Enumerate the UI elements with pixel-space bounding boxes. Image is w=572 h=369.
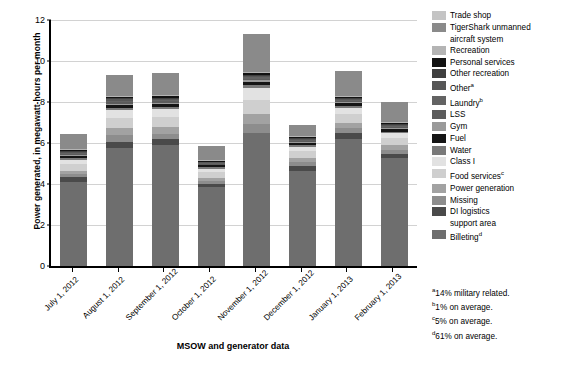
x-axis-title: MSOW and generator data	[49, 341, 417, 351]
bar-segment[interactable]	[243, 88, 270, 99]
legend-label: Other recreation	[450, 68, 572, 79]
bar-stack[interactable]	[152, 73, 179, 266]
legend-item[interactable]: TigerShark unmanned	[432, 22, 572, 33]
bar-segment[interactable]	[381, 138, 408, 145]
legend-label: Recreation	[450, 45, 572, 56]
legend-label: Fuel	[450, 133, 572, 144]
x-axis-tick-label: September 1, 2012	[124, 275, 171, 322]
bar-segment[interactable]	[60, 134, 87, 149]
bar-stack[interactable]	[381, 102, 408, 266]
bar-segment[interactable]	[335, 114, 362, 123]
legend-label: Water	[450, 145, 572, 156]
bar-segment[interactable]	[243, 124, 270, 133]
x-axis-tick-label: January 1, 2013	[307, 275, 354, 322]
legend-swatch	[432, 196, 446, 205]
bar-segment[interactable]	[198, 187, 225, 266]
bar-segment[interactable]	[106, 110, 133, 118]
legend-item[interactable]: DI logistics	[432, 206, 572, 217]
bar-stack[interactable]	[243, 34, 270, 266]
bar-segment[interactable]	[198, 146, 225, 160]
legend-footnote-marker: b	[480, 97, 483, 103]
bar-segment[interactable]	[335, 71, 362, 95]
legend-item[interactable]: Power generation	[432, 183, 572, 194]
legend-label: Food servicesc	[450, 168, 572, 182]
legend-label: LSS	[450, 109, 572, 120]
chart-figure: Power generated, in megawatt-hours per m…	[0, 0, 572, 369]
y-axis-title: Power generated, in megawatt-hours per m…	[32, 6, 42, 256]
legend-label: TigerShark unmanned	[450, 22, 572, 33]
legend-item[interactable]: Other recreation	[432, 68, 572, 79]
legend-item[interactable]: Recreation	[432, 45, 572, 56]
bar-segment[interactable]	[106, 75, 133, 96]
bar-segment[interactable]	[60, 182, 87, 266]
legend-swatch	[432, 11, 446, 20]
x-axis-tick-mark	[72, 268, 73, 272]
x-axis-tick-mark	[118, 268, 119, 272]
bar-segment[interactable]	[106, 128, 133, 135]
legend-footnote-marker: c	[501, 170, 504, 176]
footnote: c5% on average.	[432, 313, 572, 327]
legend-swatch	[432, 230, 446, 239]
x-axis-tick-mark	[209, 268, 210, 272]
footnote: d61% on average.	[432, 328, 572, 342]
legend-swatch	[432, 134, 446, 143]
bar-segment[interactable]	[152, 109, 179, 116]
legend-swatch	[432, 96, 446, 105]
x-axis-tick-mark	[301, 268, 302, 272]
x-axis-tick-mark	[163, 268, 164, 272]
legend-swatch	[432, 69, 446, 78]
x-axis-tick-label: February 1, 2013	[353, 275, 400, 322]
bar-segment[interactable]	[243, 34, 270, 72]
bar-stack[interactable]	[60, 134, 87, 266]
bar-segment[interactable]	[106, 148, 133, 266]
x-axis-tick-label: October 1, 2012	[170, 275, 217, 322]
legend-label: Gym	[450, 121, 572, 132]
legend-item[interactable]: Trade shop	[432, 10, 572, 21]
x-axis-tick-mark	[392, 268, 393, 272]
bar-segment[interactable]	[243, 114, 270, 124]
legend-swatch	[432, 157, 446, 166]
legend-label-continued: support area	[450, 218, 572, 229]
legend-swatch	[432, 81, 446, 90]
legend-item[interactable]: Missing	[432, 195, 572, 206]
bar-segment[interactable]	[289, 171, 316, 266]
bar-stack[interactable]	[198, 146, 225, 266]
legend-item[interactable]: Laundryb	[432, 95, 572, 109]
bar-segment[interactable]	[335, 139, 362, 266]
footnote-marker: c	[432, 315, 435, 321]
bar-segment[interactable]	[106, 118, 133, 129]
footnote: a14% military related.	[432, 285, 572, 299]
bar-segment[interactable]	[152, 145, 179, 266]
bar-stack[interactable]	[106, 75, 133, 266]
legend-item[interactable]: LSS	[432, 109, 572, 120]
legend-item[interactable]: Gym	[432, 121, 572, 132]
x-axis-tick-label: July 1, 2012	[33, 275, 80, 322]
legend-swatch	[432, 146, 446, 155]
x-axis-tick-label: November 1, 2012	[216, 275, 263, 322]
bar-stack[interactable]	[335, 71, 362, 266]
legend-label: Billetingd	[450, 229, 572, 243]
bar-segment[interactable]	[243, 133, 270, 266]
legend-item[interactable]: Fuel	[432, 133, 572, 144]
legend-item[interactable]: Personal services	[432, 57, 572, 68]
legend-item[interactable]: Class I	[432, 156, 572, 167]
x-axis-tick-mark	[255, 268, 256, 272]
legend-footnote-marker: d	[479, 231, 482, 237]
legend-swatch	[432, 110, 446, 119]
bar-stack[interactable]	[289, 125, 316, 266]
footnote: b1% on average.	[432, 299, 572, 313]
legend-item[interactable]: Food servicesc	[432, 168, 572, 182]
legend-item[interactable]: Water	[432, 145, 572, 156]
legend-item[interactable]: Othera	[432, 80, 572, 94]
legend-swatch	[432, 169, 446, 178]
x-axis-tick-label: August 1, 2012	[79, 275, 126, 322]
bar-segment[interactable]	[289, 125, 316, 136]
footnote-marker: d	[432, 330, 435, 336]
legend-label: Othera	[450, 80, 572, 94]
bar-segment[interactable]	[152, 117, 179, 127]
bar-segment[interactable]	[381, 102, 408, 122]
legend-item[interactable]: Billetingd	[432, 229, 572, 243]
bar-segment[interactable]	[243, 100, 270, 115]
bar-segment[interactable]	[381, 158, 408, 266]
bar-segment[interactable]	[152, 73, 179, 95]
